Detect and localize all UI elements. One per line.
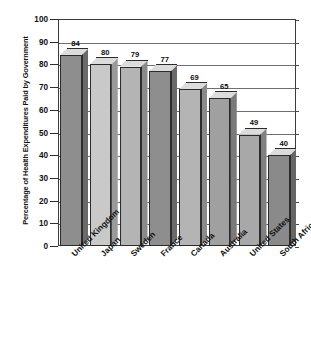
y-axis-tick: [50, 223, 58, 224]
y-axis-tick: [50, 155, 58, 156]
y-axis-tick-labels: 0102030405060708090100: [0, 19, 48, 246]
y-axis-tick-label: 70: [2, 83, 48, 92]
bar-value-label: 49: [250, 118, 258, 127]
y-axis-tick-label: 0: [2, 242, 48, 251]
bar: [209, 98, 231, 246]
bar-side-face: [290, 149, 297, 246]
y-axis-tick: [50, 42, 58, 43]
y-axis-tick-label: 20: [2, 196, 48, 205]
bar-front-face: [60, 55, 82, 246]
bar-side-face: [260, 128, 267, 246]
y-axis-tick: [50, 87, 58, 88]
bar-side-face: [201, 83, 208, 246]
bar-value-label: 65: [220, 82, 228, 91]
y-axis-tick-label: 80: [2, 60, 48, 69]
bar: [60, 55, 82, 246]
y-axis-tick-label: 60: [2, 105, 48, 114]
bar-side-face: [230, 92, 237, 246]
bar-value-label: 79: [131, 50, 139, 59]
bar-value-label: 77: [160, 55, 168, 64]
bar-value-label: 80: [101, 48, 109, 57]
bar-front-face: [179, 89, 201, 246]
y-axis-tick: [50, 201, 58, 202]
bar-top-edge: [245, 128, 267, 129]
bar-top-edge: [186, 82, 208, 83]
bar-side-face: [82, 49, 89, 246]
bar: [120, 67, 142, 246]
y-axis-tick-label: 40: [2, 151, 48, 160]
y-axis-minor-tick: [295, 247, 299, 248]
bar: [149, 71, 171, 246]
bar-top-edge: [96, 57, 118, 58]
bar-front-face: [120, 67, 142, 246]
y-axis-tick-label: 10: [2, 219, 48, 228]
bar-side-face: [141, 60, 148, 246]
y-axis-tick-label: 100: [2, 15, 48, 24]
y-axis-tick: [50, 19, 58, 20]
y-axis-tick-label: 50: [2, 128, 48, 137]
bar-front-face: [149, 71, 171, 246]
bar-chart: Percentage of Health Expenditures Paid b…: [0, 0, 311, 339]
y-axis-tick-label: 90: [2, 37, 48, 46]
y-axis-tick: [50, 246, 58, 247]
bar-side-face: [171, 65, 178, 246]
bar-value-label: 69: [190, 73, 198, 82]
bars-layer: 8480797769654940: [58, 19, 296, 246]
x-axis-category-labels: United KingdomJapanSwedenFranceCanadaAus…: [58, 250, 296, 338]
y-axis-tick: [50, 133, 58, 134]
bar: [179, 89, 201, 246]
bar-top-edge: [215, 91, 237, 92]
y-axis-tick: [50, 178, 58, 179]
bar-top-edge: [67, 48, 89, 49]
bar-value-label: 84: [71, 39, 79, 48]
bar-front-face: [209, 98, 231, 246]
y-axis-tick: [50, 110, 58, 111]
y-axis-tick-label: 30: [2, 173, 48, 182]
bar-value-label: 40: [279, 139, 287, 148]
y-axis-tick: [50, 64, 58, 65]
bar-top-edge: [126, 60, 148, 61]
bar-top-edge: [156, 64, 178, 65]
bar-top-edge: [275, 148, 297, 149]
